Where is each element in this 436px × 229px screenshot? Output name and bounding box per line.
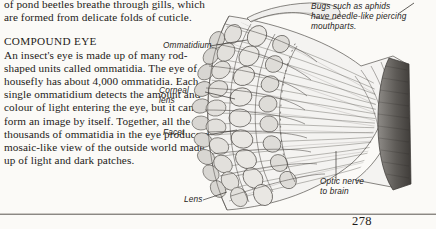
page-number: 278 — [352, 214, 372, 229]
label-facet: Facet — [163, 127, 185, 137]
caption-aphid-leader — [396, 2, 418, 16]
label-corneal-lens: Corneal lens — [159, 85, 189, 105]
label-optic-nerve: Optic nerve to brain — [320, 176, 364, 196]
label-lens: Lens — [184, 194, 203, 204]
continued-paragraph: of pond beetles breathe through gills, w… — [4, 0, 209, 24]
text-column: of pond beetles breathe through gills, w… — [4, 0, 209, 167]
caption-aphid: Bugs such as aphids have needle-like pie… — [311, 1, 407, 31]
compound-eye-paragraph: An insect's eye is made up of many rod-s… — [4, 49, 209, 168]
book-page: of pond beetles breathe through gills, w… — [0, 0, 436, 229]
compound-eye-diagram — [185, 0, 436, 229]
label-ommatidium: Ommatidium — [163, 40, 212, 50]
